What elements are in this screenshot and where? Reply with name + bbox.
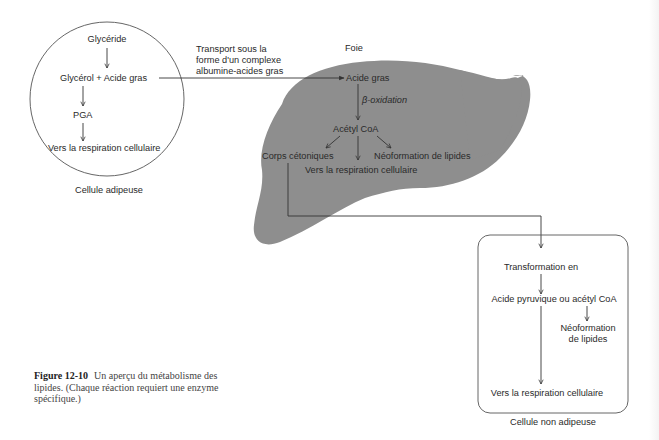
liver-ketone-bodies-label: Corps cétoniques bbox=[262, 151, 334, 162]
figure-number: Figure 12-10 bbox=[34, 370, 88, 381]
adipose-respiration-label: Vers la respiration cellulaire bbox=[48, 143, 160, 154]
adipose-glycerol-fatty-acid-label: Glycérol + Acide gras bbox=[60, 73, 147, 84]
transport-label-line1: Transport sous la bbox=[196, 44, 267, 55]
adipose-glyceride-label: Glycéride bbox=[88, 34, 127, 45]
figure-caption: Figure 12-10Un aperçu du métabolisme des… bbox=[34, 370, 244, 405]
liver-lipid-neoformation-label: Néoformation de lipides bbox=[374, 151, 471, 162]
liver-right-lobe bbox=[460, 70, 522, 160]
liver-fatty-acid-label: Acide gras bbox=[346, 73, 389, 84]
liver-beta-oxidation-label: β-oxidation bbox=[362, 95, 407, 106]
non-adipose-neoformation-label-line1: Néoformation bbox=[560, 323, 615, 334]
liver-acetyl-coa-label: Acétyl CoA bbox=[333, 124, 378, 135]
page-edge-shadow bbox=[649, 0, 659, 440]
adipose-pga-label: PGA bbox=[73, 110, 92, 121]
non-adipose-cell-label: Cellule non adipeuse bbox=[510, 417, 596, 428]
non-adipose-pyruvic-label: Acide pyruvique ou acétyl CoA bbox=[491, 294, 616, 305]
liver-respiration-label: Vers la respiration cellulaire bbox=[305, 165, 417, 176]
transport-label-line3: albumine-acides gras bbox=[196, 66, 283, 77]
non-adipose-respiration-label: Vers la respiration cellulaire bbox=[491, 388, 603, 399]
transport-label-line2: forme d'un complexe bbox=[196, 55, 281, 66]
non-adipose-neoformation-label-line2: de lipides bbox=[569, 334, 608, 345]
non-adipose-transformation-label: Transformation en bbox=[504, 262, 578, 273]
liver-label: Foie bbox=[345, 43, 363, 54]
adipose-cell-label: Cellule adipeuse bbox=[75, 185, 143, 196]
